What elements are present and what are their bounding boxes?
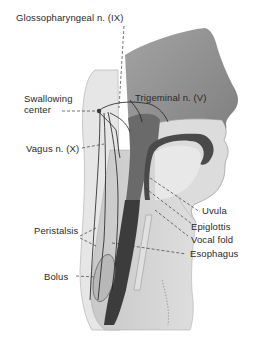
- label-esophagus: Esophagus: [190, 248, 238, 259]
- swallowing-diagram: [0, 0, 259, 339]
- swallowing-center-dot: [97, 109, 101, 113]
- label-peristalsis: Peristalsis: [34, 225, 78, 236]
- label-vocal-fold: Vocal fold: [191, 234, 233, 245]
- label-swallowing-center-line1: Swallowing: [24, 93, 73, 104]
- label-trigeminal-nerve: Trigeminal n. (V): [135, 92, 207, 103]
- label-vagus-nerve: Vagus n. (X): [26, 143, 79, 154]
- label-swallowing-center-line2: center: [24, 104, 51, 115]
- label-bolus: Bolus: [44, 271, 68, 282]
- label-glossopharyngeal-nerve: Glossopharyngeal n. (IX): [16, 12, 123, 23]
- label-epiglottis: Epiglottis: [191, 221, 231, 232]
- label-uvula: Uvula: [202, 205, 227, 216]
